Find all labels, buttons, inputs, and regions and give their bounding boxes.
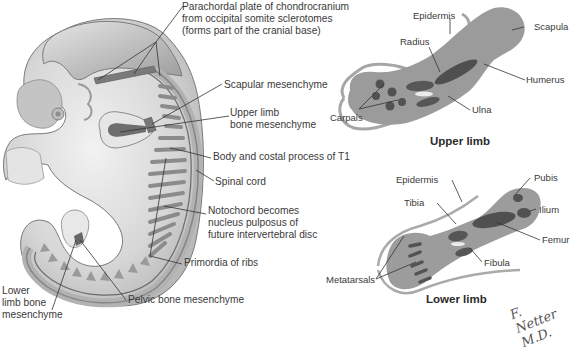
label-scapula: Scapula	[534, 21, 568, 33]
embryo	[4, 19, 204, 306]
caption-upper-limb: Upper limb	[430, 135, 490, 147]
label-humerus: Humerus	[526, 74, 565, 86]
label-fibula: Fibula	[484, 257, 510, 269]
label-radius: Radius	[400, 36, 430, 48]
ulna-gap	[415, 92, 433, 97]
label-parachordal-plate: Parachordal plate of chondrocranium from…	[182, 1, 382, 37]
label-lower-epidermis: Epidermis	[396, 174, 438, 186]
label-pelvic-bone-mesenchyme: Pelvic bone mesenchyme	[128, 294, 244, 306]
label-carpals: Carpals	[330, 112, 363, 124]
arm-stub	[6, 148, 44, 185]
tibia-gap	[451, 242, 465, 246]
label-pubis: Pubis	[534, 172, 558, 184]
lower-limb-diagram	[378, 188, 541, 293]
label-lower-limb-bone-mesenchyme: Lower limb bone mesenchyme	[2, 285, 72, 321]
label-scapular-mesenchyme: Scapular mesenchyme	[224, 79, 328, 91]
label-ulna: Ulna	[472, 104, 492, 116]
caption-lower-limb: Lower limb	[426, 293, 487, 305]
label-ilium: Ilium	[539, 204, 559, 216]
label-femur: Femur	[542, 234, 569, 246]
label-notochord: Notochord becomes nucleus pulposus of fu…	[208, 205, 348, 241]
label-primordia-of-ribs: Primordia of ribs	[184, 257, 258, 269]
label-metatarsals: Metatarsals	[326, 274, 375, 286]
label-tibia: Tibia	[404, 197, 424, 209]
label-spinal-cord: Spinal cord	[215, 176, 266, 188]
label-body-costal-process-t1: Body and costal process of T1	[213, 151, 350, 163]
label-upper-epidermis: Epidermis	[413, 10, 455, 22]
ilium	[517, 208, 531, 218]
